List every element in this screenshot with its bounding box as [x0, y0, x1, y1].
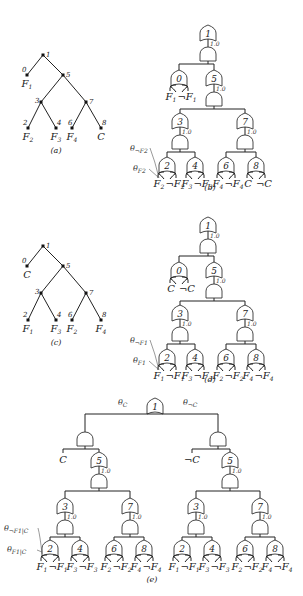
and-gate: [172, 327, 188, 341]
literal-label: F3: [181, 178, 193, 190]
gate-number-label: 5: [211, 266, 217, 276]
gate-number-label: 3: [193, 502, 199, 512]
literal-label: ¬F1: [177, 91, 196, 103]
literal-label: F1: [168, 561, 180, 573]
gate-number-label: 2: [163, 161, 170, 171]
literal-label: ¬F1: [48, 561, 67, 573]
edge-weight-label: 1.0: [216, 85, 226, 92]
literal-label: ¬C: [256, 178, 272, 189]
theta-parameter-label: θ¬F1: [130, 336, 148, 346]
gate-number-label: 6: [223, 161, 229, 171]
wire: [41, 75, 63, 102]
gate-number-label: 7: [242, 309, 248, 319]
vtree-node-number: 6: [68, 311, 73, 319]
wire: [41, 102, 56, 128]
literal-label: ¬F4: [273, 561, 292, 573]
and-gate: [91, 474, 107, 488]
literal-label: F3: [66, 561, 78, 573]
literal-label: F1: [36, 561, 48, 573]
edge-weight-label: 1.0: [101, 467, 111, 474]
gate-number-label: 8: [253, 353, 259, 363]
vtree-node-number: 1: [46, 51, 50, 59]
literal-label: F4: [130, 561, 142, 573]
and-gate: [222, 474, 238, 488]
panel-caption: (e): [147, 575, 158, 584]
gate-number-label: 4: [76, 544, 83, 554]
literal-label: F3: [198, 561, 210, 573]
gate-number-label: 6: [111, 544, 117, 554]
vtree-leaf-variable: C: [97, 131, 105, 142]
and-gate: [200, 239, 216, 253]
literal-label: F3: [181, 370, 193, 382]
and-gate: [237, 135, 253, 149]
edge-weight-label: 1.0: [247, 320, 257, 327]
wire: [27, 55, 43, 75]
edge-weight-label: 1.0: [210, 40, 220, 47]
literal-label: F2: [100, 561, 112, 573]
gate-number-label: 5: [227, 456, 233, 466]
wire: [72, 102, 86, 128]
vtree-node-number: 2: [22, 311, 28, 319]
gate-number-label: 6: [223, 353, 229, 363]
literal-label: ¬F2: [243, 561, 262, 573]
wire: [41, 293, 56, 320]
context-literal: ¬C: [184, 454, 200, 465]
gate-number-label: 7: [257, 502, 263, 512]
wire: [72, 293, 86, 320]
figure-canvas: 10F15372F24F36F48C(a)10C5372F14F36F28F4(…: [0, 0, 303, 596]
literal-label: ¬F4: [224, 178, 243, 190]
edge-weight-label: 1.0: [67, 513, 77, 520]
vtree-leaf-variable: F2: [22, 131, 34, 143]
gate-number-label: 1: [205, 221, 211, 231]
edge-weight-label: 1.0: [182, 128, 192, 135]
and-gate: [237, 327, 253, 341]
vtree-leaf-variable: F1: [22, 323, 34, 335]
and-gate: [188, 520, 204, 534]
gate-number-label: 8: [141, 544, 147, 554]
vtree-node: [42, 245, 45, 248]
literal-label: F4: [242, 370, 254, 382]
wire: [28, 293, 41, 320]
vtree-node: [40, 292, 43, 295]
subcircuit-not-c: ¬C51.031.02F1¬F14F3¬F371.06F2¬F28F4¬F4: [168, 432, 293, 573]
wire: [41, 266, 63, 293]
edge-weight-label: 1.0: [232, 467, 242, 474]
edge-weight-label: 1.0: [216, 277, 226, 284]
theta-pointer: [149, 361, 158, 369]
context-literal: C: [59, 454, 67, 465]
panel-caption: (d): [204, 375, 215, 384]
gate-number-label: 1: [205, 29, 211, 39]
circuit-panel-d: 11.00C¬C51.031.071.02F1¬F14F3¬F36F2¬F28F…: [130, 217, 274, 384]
vtree-leaf-variable: F3: [50, 131, 62, 143]
vtree-leaf-variable: C: [23, 269, 31, 280]
literal-label: F1: [153, 370, 165, 382]
gate-number-label: 4: [208, 544, 215, 554]
panel-caption: (c): [51, 338, 62, 347]
vtree-node-number: 1: [46, 242, 50, 250]
literal-label: ¬F3: [78, 561, 97, 573]
edge-weight-label: 1.0: [182, 320, 192, 327]
gate-number-label: 8: [272, 544, 278, 554]
literal-label: ¬F4: [142, 561, 161, 573]
circuit-panel-b: 11.00F1¬F151.031.071.02F2¬F24F3¬F36F4¬F4…: [130, 25, 272, 192]
literal-label: ¬F1: [180, 561, 199, 573]
and-gate: [77, 432, 93, 446]
gate-number-label: 7: [127, 502, 133, 512]
edge-weight-label: 1.0: [198, 513, 208, 520]
gate-number-label: 3: [177, 309, 183, 319]
and-gate: [122, 520, 138, 534]
circuit-panel-e: 1θCθ¬CC51.031.02F1¬F14F3¬F371.06F2¬F28F4…: [4, 398, 293, 584]
vtree-node: [62, 74, 65, 77]
theta-pointer: [38, 528, 42, 554]
edge-weight-label: 1.0: [247, 128, 257, 135]
literal-label: F4: [261, 561, 273, 573]
theta-parameter-label: θC: [118, 398, 128, 408]
gate-number-label: 6: [242, 544, 248, 554]
vtree-node-number: 5: [66, 262, 71, 270]
literal-label: F2: [153, 178, 165, 190]
gate-number-label: 5: [211, 74, 217, 84]
and-gate: [57, 520, 73, 534]
theta-parameter-label: θ¬C: [183, 398, 198, 408]
vtree-node-number: 3: [35, 288, 40, 296]
literal-label: ¬C: [179, 283, 195, 294]
